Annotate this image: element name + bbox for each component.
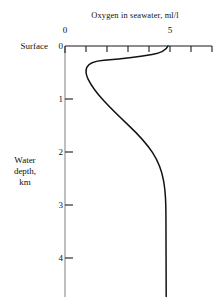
oxygen-depth-profile-figure: Oxygen in seawater, ml/l 0 5 Surface 0 1… [0,0,222,306]
oxygen-profile-curve [86,46,168,297]
y-axis-ticks [65,99,73,258]
x-axis-ticks [65,46,212,53]
plot-area [0,0,222,306]
